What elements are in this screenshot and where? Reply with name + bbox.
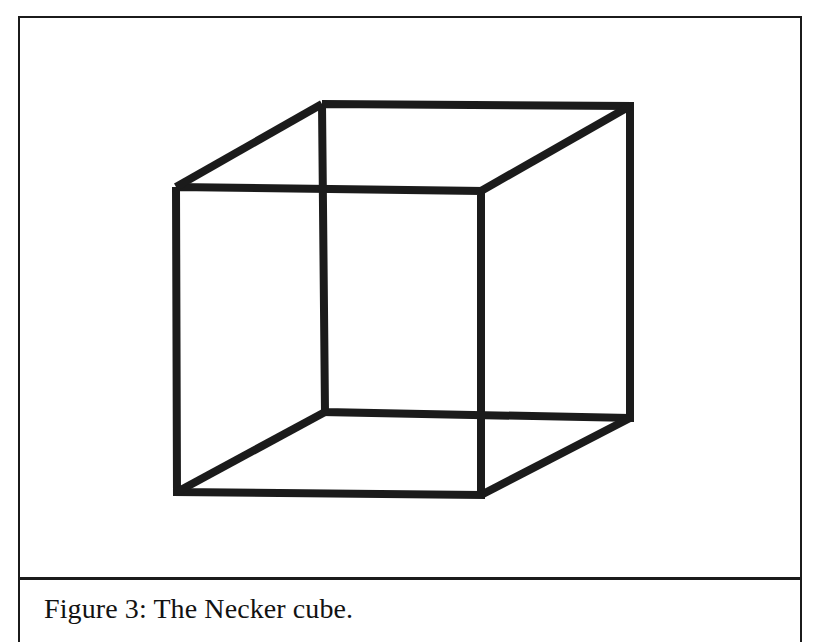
figure-page: Figure 3: The Necker cube. [0,0,817,642]
figure-caption: Figure 3: The Necker cube. [44,592,353,626]
cube-edge-connector-top-left [176,104,322,187]
necker-cube-edges [176,104,630,495]
cube-edge-back-face [322,104,630,418]
necker-cube-illustration [20,18,800,577]
figure-plate [20,18,800,577]
frame-right-rule [800,16,802,642]
caption-band: Figure 3: The Necker cube. [20,580,800,642]
cube-edge-connector-bottom-left [177,412,325,492]
cube-edge-front-face [176,187,481,495]
cube-edge-connector-bottom-right [481,418,630,495]
cube-edge-connector-top-right [481,106,630,191]
